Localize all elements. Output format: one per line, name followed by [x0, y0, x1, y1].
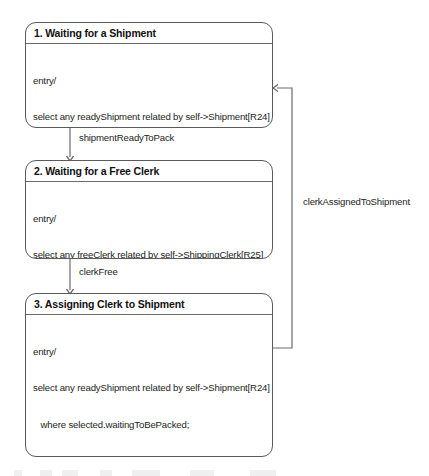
code-line: select any freeClerk related by self->Sh…	[33, 455, 266, 457]
state-box-waiting-for-a-shipment[interactable]: 1. Waiting for a Shipment entry/ select …	[25, 22, 273, 128]
transition-label-clerk-free: clerkFree	[79, 266, 118, 277]
state-box-waiting-for-a-free-clerk[interactable]: 2. Waiting for a Free Clerk entry/ selec…	[25, 160, 273, 259]
transition-label-shipment-ready-to-pack: shipmentReadyToPack	[79, 132, 174, 143]
code-line: entry/	[33, 346, 266, 358]
state-header-1: 1. Waiting for a Shipment	[26, 23, 272, 44]
transition-label-clerk-assigned-to-shipment: clerkAssignedToShipment	[303, 196, 410, 207]
code-line: select any readyShipment related by self…	[33, 382, 266, 394]
transition-clerk-assigned-to-shipment	[273, 88, 292, 348]
state-box-assigning-clerk-to-shipment[interactable]: 3. Assigning Clerk to Shipment entry/ se…	[25, 293, 273, 457]
state-header-2: 2. Waiting for a Free Clerk	[26, 161, 272, 182]
page-edge-artifact	[0, 470, 429, 476]
code-line: entry/	[33, 75, 266, 87]
diagram-canvas: 1. Waiting for a Shipment entry/ select …	[0, 0, 429, 476]
state-header-3: 3. Assigning Clerk to Shipment	[26, 294, 272, 315]
code-line: entry/	[33, 213, 266, 225]
code-line: select any readyShipment related by self…	[33, 111, 266, 123]
state-body-1: entry/ select any readyShipment related …	[26, 44, 272, 128]
code-line: select any freeClerk related by self->Sh…	[33, 249, 266, 259]
state-body-2: entry/ select any freeClerk related by s…	[26, 182, 272, 259]
code-line: where selected.waitingToBePacked;	[33, 419, 266, 431]
state-body-3: entry/ select any readyShipment related …	[26, 315, 272, 457]
